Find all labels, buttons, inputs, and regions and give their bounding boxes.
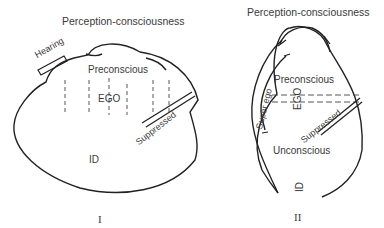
- label-id-2: ID: [295, 182, 305, 192]
- numeral-2: II: [294, 212, 301, 223]
- preconscious-arc-right: [146, 58, 166, 70]
- hearing-box: [38, 56, 67, 75]
- label-unconscious: Unconscious: [273, 146, 330, 156]
- top-arc-2: [280, 27, 330, 52]
- label-ego-2: EGO: [293, 88, 303, 110]
- title-2: Perception-consciousness: [247, 7, 370, 18]
- preconscious-arc-left: [86, 54, 102, 56]
- label-preconscious-2: Preconscious: [274, 75, 334, 85]
- numeral-1: I: [98, 214, 102, 225]
- title-1: Perception-consciousness: [62, 16, 185, 27]
- label-id-1: ID: [89, 155, 99, 165]
- label-ego-1: EGO: [98, 94, 120, 104]
- label-preconscious-1: Preconscious: [88, 65, 148, 75]
